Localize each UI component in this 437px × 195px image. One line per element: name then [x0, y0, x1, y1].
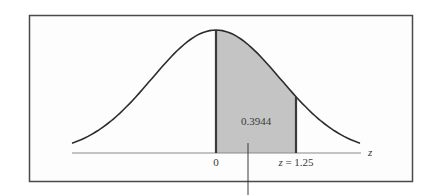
- tick-label-zero: 0: [213, 156, 219, 168]
- normal-curve-figure: 0.3944 0 z = 1.25 z: [0, 0, 437, 195]
- tick-label-z: z = 1.25: [277, 156, 314, 168]
- area-label: 0.3944: [241, 115, 272, 127]
- axis-symbol: z: [367, 146, 373, 158]
